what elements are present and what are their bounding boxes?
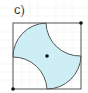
bottom-left-vertex-point: [11, 87, 15, 91]
geometry-diagram: [0, 0, 88, 93]
top-right-vertex-point: [79, 21, 83, 25]
center-point: [45, 54, 49, 58]
